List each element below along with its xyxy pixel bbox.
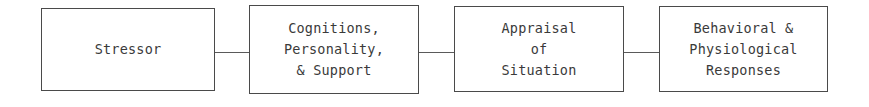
node-cognitions-personality-support-label: Cognitions, Personality, & Support bbox=[284, 18, 384, 81]
node-cognitions-personality-support[interactable]: Cognitions, Personality, & Support bbox=[249, 5, 419, 94]
node-behavioral-physiological-responses-label: Behavioral & Physiological Responses bbox=[689, 18, 797, 81]
node-appraisal-of-situation-label: Appraisal of Situation bbox=[502, 18, 577, 81]
node-appraisal-of-situation[interactable]: Appraisal of Situation bbox=[454, 6, 624, 92]
node-stressor[interactable]: Stressor bbox=[41, 8, 215, 91]
connector-stressor-to-cognitions bbox=[215, 52, 249, 53]
connector-cognitions-to-appraisal bbox=[419, 52, 454, 53]
node-behavioral-physiological-responses[interactable]: Behavioral & Physiological Responses bbox=[659, 6, 828, 92]
connector-appraisal-to-responses bbox=[624, 52, 659, 53]
flow-diagram: Stressor Cognitions, Personality, & Supp… bbox=[0, 0, 869, 107]
node-stressor-label: Stressor bbox=[95, 39, 162, 60]
